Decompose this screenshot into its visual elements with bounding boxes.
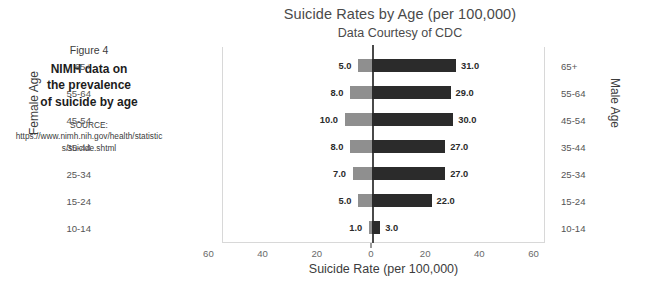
category-label-left: 45-54 bbox=[66, 114, 91, 125]
category-label-right: 45-54 bbox=[561, 114, 586, 125]
bar-value-female: 8.0 bbox=[330, 88, 343, 98]
x-axis-tick-label: 20 bbox=[405, 248, 445, 259]
bar-row: 5.022.0 bbox=[223, 194, 544, 207]
bar-value-female: 7.0 bbox=[333, 169, 346, 179]
bar-row: 10.030.0 bbox=[223, 113, 544, 126]
category-label-right: 65+ bbox=[561, 60, 577, 71]
category-label-left: 10-14 bbox=[66, 222, 91, 233]
bar-row: 5.031.0 bbox=[223, 59, 544, 72]
bar-value-female: 5.0 bbox=[339, 61, 352, 71]
bar-row: 8.027.0 bbox=[223, 140, 544, 153]
x-axis-tick-label: 20 bbox=[297, 248, 337, 259]
category-label-right: 15-24 bbox=[561, 195, 586, 206]
male-axis-title: Male Age bbox=[608, 43, 622, 163]
bar-value-male: 27.0 bbox=[450, 169, 468, 179]
category-label-left: 25-34 bbox=[66, 168, 91, 179]
bar-row: 8.029.0 bbox=[223, 86, 544, 99]
bar-value-female: 8.0 bbox=[330, 142, 343, 152]
category-label-left: 35-44 bbox=[66, 141, 91, 152]
bar-female[interactable] bbox=[353, 167, 372, 180]
category-label-right: 25-34 bbox=[561, 168, 586, 179]
bar-female[interactable] bbox=[345, 113, 372, 126]
bar-row: 1.03.0 bbox=[223, 221, 544, 234]
bar-male[interactable] bbox=[372, 167, 445, 180]
x-axis-tick-label: 60 bbox=[514, 248, 554, 259]
x-axis-tick-label: 0 bbox=[351, 248, 391, 259]
category-label-left: 55-64 bbox=[66, 87, 91, 98]
category-label-left: 65+ bbox=[75, 60, 91, 71]
bar-female[interactable] bbox=[358, 194, 372, 207]
category-label-left: 15-24 bbox=[66, 195, 91, 206]
bar-female[interactable] bbox=[350, 140, 372, 153]
bar-male[interactable] bbox=[372, 113, 453, 126]
bar-row: 7.027.0 bbox=[223, 167, 544, 180]
bar-male[interactable] bbox=[372, 86, 451, 99]
bar-value-male: 3.0 bbox=[385, 223, 398, 233]
x-axis-title: Suicide Rate (per 100,000) bbox=[222, 262, 545, 276]
category-label-right: 10-14 bbox=[561, 222, 586, 233]
bar-value-male: 30.0 bbox=[458, 115, 476, 125]
category-label-right: 55-64 bbox=[561, 87, 586, 98]
bar-male[interactable] bbox=[372, 221, 380, 234]
bar-value-female: 10.0 bbox=[320, 115, 338, 125]
bar-male[interactable] bbox=[372, 59, 456, 72]
chart-subtitle: Data Courtesy of CDC bbox=[200, 26, 600, 40]
category-label-right: 35-44 bbox=[561, 141, 586, 152]
bar-value-male: 31.0 bbox=[461, 61, 479, 71]
bar-female[interactable] bbox=[350, 86, 372, 99]
bar-value-male: 22.0 bbox=[437, 196, 455, 206]
bar-value-male: 27.0 bbox=[450, 142, 468, 152]
bar-female[interactable] bbox=[358, 59, 372, 72]
female-axis-title: Female Age bbox=[27, 43, 41, 163]
bar-value-male: 29.0 bbox=[456, 88, 474, 98]
plot-area: 5.031.08.029.010.030.08.027.07.027.05.02… bbox=[222, 47, 545, 243]
bar-value-female: 1.0 bbox=[349, 223, 362, 233]
plot-inner: 5.031.08.029.010.030.08.027.07.027.05.02… bbox=[223, 47, 544, 242]
bar-male[interactable] bbox=[372, 140, 445, 153]
x-axis-tick-label: 60 bbox=[188, 248, 228, 259]
bar-male[interactable] bbox=[372, 194, 432, 207]
x-axis-tick-label: 40 bbox=[459, 248, 499, 259]
bar-value-female: 5.0 bbox=[339, 196, 352, 206]
chart-title: Suicide Rates by Age (per 100,000) bbox=[200, 6, 600, 22]
x-axis-tick-label: 40 bbox=[243, 248, 283, 259]
